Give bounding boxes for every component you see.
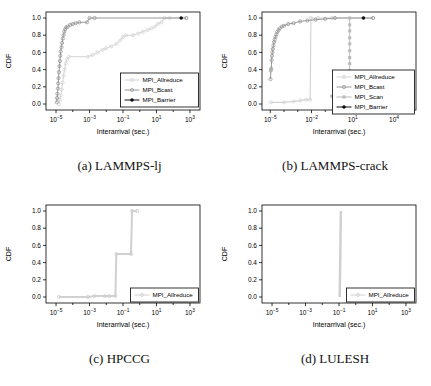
svg-text:0.0: 0.0 bbox=[247, 100, 256, 107]
svg-text:MPI_Bcast: MPI_Bcast bbox=[354, 83, 384, 90]
figure-grid: 0.00.20.40.60.81.010−510−310−1101103Inte… bbox=[0, 0, 431, 386]
panel-lammps-lj: 0.00.20.40.60.81.010−510−310−1101103Inte… bbox=[0, 0, 215, 193]
svg-text:CDF: CDF bbox=[5, 247, 12, 261]
svg-text:1.0: 1.0 bbox=[32, 207, 41, 214]
svg-text:101: 101 bbox=[152, 115, 162, 123]
svg-text:Interarrival (sec.): Interarrival (sec.) bbox=[312, 128, 365, 136]
panel-lammps-crack: 0.00.20.40.60.81.010−510−2101104Interarr… bbox=[215, 0, 431, 193]
svg-text:MPI_Allreduce: MPI_Allreduce bbox=[368, 291, 409, 298]
svg-text:0.2: 0.2 bbox=[247, 276, 256, 283]
svg-text:10−3: 10−3 bbox=[83, 115, 96, 123]
caption-lammps-lj: (a) LAMMPS-lj bbox=[77, 158, 161, 174]
svg-text:0.0: 0.0 bbox=[32, 293, 41, 300]
svg-text:10−5: 10−5 bbox=[50, 115, 63, 123]
caption-lulesh: (d) LULESH bbox=[301, 351, 369, 367]
svg-text:10−5: 10−5 bbox=[265, 308, 278, 316]
svg-text:Interarrival (sec.): Interarrival (sec.) bbox=[97, 128, 150, 136]
svg-text:CDF: CDF bbox=[221, 247, 228, 261]
svg-text:103: 103 bbox=[401, 308, 411, 316]
caption-lammps-crack: (b) LAMMPS-crack bbox=[282, 158, 388, 174]
svg-text:101: 101 bbox=[347, 115, 357, 123]
svg-text:CDF: CDF bbox=[5, 54, 12, 68]
svg-text:Interarrival (sec.): Interarrival (sec.) bbox=[97, 321, 150, 329]
svg-text:10−5: 10−5 bbox=[50, 308, 63, 316]
svg-text:10−3: 10−3 bbox=[299, 308, 312, 316]
svg-text:0.6: 0.6 bbox=[32, 242, 41, 249]
svg-text:1.0: 1.0 bbox=[32, 14, 41, 21]
svg-text:MPI_Allreduce: MPI_Allreduce bbox=[153, 291, 194, 298]
svg-text:101: 101 bbox=[152, 308, 162, 316]
svg-text:103: 103 bbox=[185, 308, 195, 316]
svg-text:10−2: 10−2 bbox=[305, 115, 318, 123]
panel-hpccg: 0.00.20.40.60.81.010−510−310−1101103Inte… bbox=[0, 193, 215, 386]
svg-text:MPI_Scan: MPI_Scan bbox=[354, 93, 383, 100]
svg-text:1.0: 1.0 bbox=[247, 14, 256, 21]
svg-text:10−1: 10−1 bbox=[332, 308, 345, 316]
svg-text:CDF: CDF bbox=[221, 54, 228, 68]
svg-text:104: 104 bbox=[389, 115, 399, 123]
svg-text:10−3: 10−3 bbox=[83, 308, 96, 316]
svg-text:0.6: 0.6 bbox=[247, 49, 256, 56]
svg-text:103: 103 bbox=[185, 115, 195, 123]
svg-text:1.0: 1.0 bbox=[247, 207, 256, 214]
svg-text:101: 101 bbox=[367, 308, 377, 316]
svg-text:10−5: 10−5 bbox=[263, 115, 276, 123]
svg-text:0.8: 0.8 bbox=[32, 31, 41, 38]
svg-text:0.6: 0.6 bbox=[32, 49, 41, 56]
chart-lammps-lj: 0.00.20.40.60.81.010−510−310−1101103Inte… bbox=[0, 0, 215, 150]
svg-text:0.4: 0.4 bbox=[247, 66, 256, 73]
svg-text:0.2: 0.2 bbox=[247, 83, 256, 90]
svg-text:MPI_Barrier: MPI_Barrier bbox=[143, 96, 176, 103]
svg-text:0.8: 0.8 bbox=[247, 31, 256, 38]
chart-lulesh: 0.00.20.40.60.81.010−510−310−1101103Inte… bbox=[216, 193, 431, 343]
svg-text:0.8: 0.8 bbox=[247, 224, 256, 231]
svg-text:0.2: 0.2 bbox=[32, 276, 41, 283]
svg-text:MPI_Bcast: MPI_Bcast bbox=[143, 86, 173, 93]
panel-lulesh: 0.00.20.40.60.81.010−510−310−1101103Inte… bbox=[215, 193, 431, 386]
svg-text:0.4: 0.4 bbox=[247, 259, 256, 266]
svg-text:0.4: 0.4 bbox=[32, 259, 41, 266]
chart-lammps-crack: 0.00.20.40.60.81.010−510−2101104Interarr… bbox=[216, 0, 431, 150]
svg-text:0.8: 0.8 bbox=[32, 224, 41, 231]
svg-text:Interarrival (sec.): Interarrival (sec.) bbox=[312, 321, 365, 329]
svg-text:MPI_Allreduce: MPI_Allreduce bbox=[143, 76, 184, 83]
svg-text:0.0: 0.0 bbox=[247, 293, 256, 300]
svg-text:10−1: 10−1 bbox=[117, 308, 130, 316]
svg-text:0.0: 0.0 bbox=[32, 100, 41, 107]
svg-text:10−1: 10−1 bbox=[117, 115, 130, 123]
svg-text:0.2: 0.2 bbox=[32, 83, 41, 90]
svg-text:MPI_Barrier: MPI_Barrier bbox=[354, 103, 387, 110]
caption-hpccg: (c) HPCCG bbox=[89, 351, 150, 367]
svg-text:0.6: 0.6 bbox=[247, 242, 256, 249]
chart-hpccg: 0.00.20.40.60.81.010−510−310−1101103Inte… bbox=[0, 193, 215, 343]
svg-text:0.4: 0.4 bbox=[32, 66, 41, 73]
svg-text:MPI_Allreduce: MPI_Allreduce bbox=[354, 73, 395, 80]
